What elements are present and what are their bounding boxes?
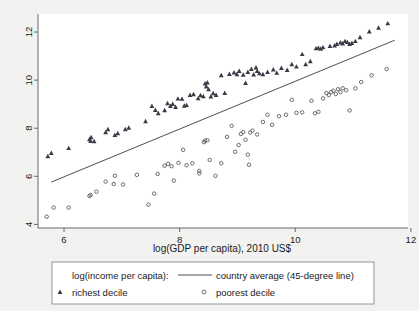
scatter-plot: 6810124681012 log(GDP per capita), 2010 … — [0, 0, 419, 311]
chart-legend: log(income per capita):country average (… — [52, 262, 374, 304]
legend-header: log(income per capita): — [72, 270, 169, 281]
y-tick-label-10: 10 — [24, 75, 35, 86]
chart-figure: 6810124681012 log(GDP per capita), 2010 … — [0, 0, 419, 311]
y-tick-label-8: 8 — [24, 126, 35, 131]
legend-box — [52, 262, 374, 304]
y-tick-label-6: 6 — [24, 174, 35, 179]
legend-label-country-average: country average (45-degree line) — [216, 270, 354, 281]
plot-area-background — [38, 14, 408, 228]
y-tick-label-4: 4 — [24, 222, 35, 227]
x-tick-label-12: 12 — [406, 234, 417, 245]
legend-label-richest-decile: richest decile — [72, 287, 127, 298]
legend-label-poorest-decile: poorest decile — [216, 287, 275, 298]
x-axis-title: log(GDP per capita), 2010 US$ — [153, 243, 292, 254]
x-tick-label-10: 10 — [290, 234, 301, 245]
x-tick-label-6: 6 — [61, 234, 66, 245]
y-tick-label-12: 12 — [24, 27, 35, 38]
